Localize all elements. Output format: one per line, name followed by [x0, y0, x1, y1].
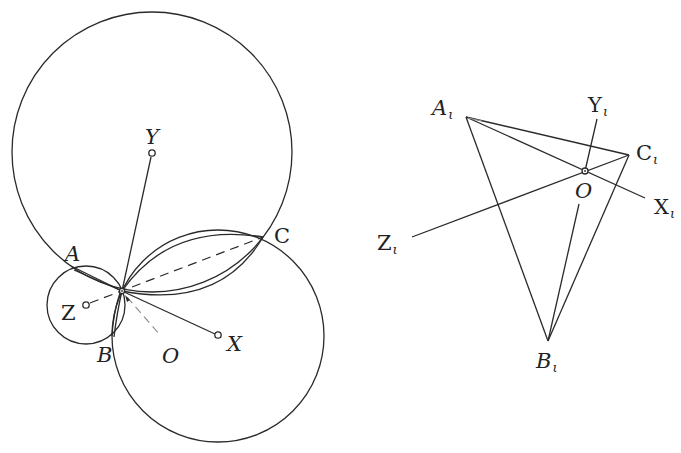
label-A: A: [63, 242, 80, 266]
dashed-line-ZC: [90, 237, 263, 303]
line-pivot-Y: [122, 157, 151, 291]
axis-X1: [466, 117, 645, 198]
label-Y: Y: [145, 125, 161, 149]
label-C1: Cι: [636, 141, 658, 167]
label-Z1: Zι: [377, 231, 398, 257]
label-X1: Xι: [654, 195, 675, 221]
label-B1: Bι: [535, 349, 558, 375]
left-figure: Y A C Z B O X: [12, 12, 324, 442]
point-pivot-dot: [121, 290, 123, 292]
axis-Z1: [412, 155, 629, 237]
label-B: B: [96, 343, 112, 367]
dashed-line-O: [127, 297, 160, 335]
point-O-dot: [584, 170, 586, 172]
label-O: O: [162, 344, 179, 368]
label-C: C: [274, 224, 290, 248]
geometry-diagram: Y A C Z B O X Aι Yι Cι O Xι Zι Bι: [0, 0, 681, 453]
point-X: [215, 332, 221, 338]
label-X: X: [225, 332, 243, 356]
point-Z: [83, 302, 89, 308]
lens-arc-upper: [122, 234, 263, 291]
label-Y1: Yι: [587, 93, 608, 119]
line-pivot-X: [122, 291, 215, 334]
line-pivot-A-2: [74, 270, 122, 291]
arrowhead: [125, 295, 130, 302]
right-figure: Aι Yι Cι O Xι Zι Bι: [377, 93, 675, 375]
edge-A1-C1: [466, 117, 629, 155]
edge-A1-B1: [466, 117, 548, 341]
label-O: O: [575, 179, 592, 203]
line-O-B1: [548, 204, 579, 341]
label-Z: Z: [61, 301, 76, 325]
label-A1: Aι: [430, 96, 453, 122]
point-Y: [149, 150, 155, 156]
